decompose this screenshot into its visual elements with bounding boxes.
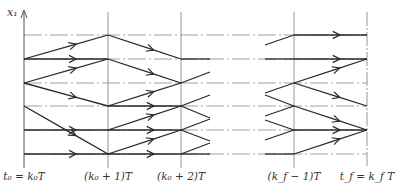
edge-stub — [265, 120, 294, 130]
transition-edge — [294, 83, 367, 106]
state-transition-diagram — [0, 0, 396, 191]
edge-stub — [265, 106, 294, 116]
transition-edge — [24, 83, 108, 106]
edge-stub — [181, 106, 210, 118]
transition-edge — [108, 35, 181, 59]
tick-label-t2: (k₀ + 2)T — [157, 170, 205, 182]
edge-stub — [181, 95, 210, 106]
edge-stub — [265, 95, 294, 106]
x1-axis — [21, 10, 27, 168]
transition-edge — [108, 59, 181, 83]
transition-edge — [294, 130, 367, 154]
edge-stub — [181, 119, 210, 130]
edge-stub — [265, 83, 294, 93]
edge-stub — [181, 72, 210, 83]
transition-edge — [294, 106, 367, 130]
transition-edge — [24, 59, 108, 83]
tick-label-t1: (k₀ + 1)T — [84, 170, 132, 182]
edge-stub — [181, 143, 210, 154]
edge-stub — [181, 130, 210, 141]
tick-label-tf: t_f = k_f T — [340, 170, 395, 182]
edge-stub — [265, 35, 294, 45]
transition-edge — [294, 59, 367, 83]
axis-label-x1: x₁ — [7, 6, 18, 19]
transition-edge — [108, 106, 181, 130]
transition-edge — [108, 83, 181, 106]
tick-label-t0: t₀ = k₀T — [3, 170, 44, 182]
transition-edge — [24, 35, 108, 59]
edge-stub — [265, 130, 294, 140]
tick-label-tfm1: (k_f − 1)T — [268, 170, 321, 182]
transition-edge — [108, 130, 181, 154]
continuation-stubs — [181, 35, 294, 154]
